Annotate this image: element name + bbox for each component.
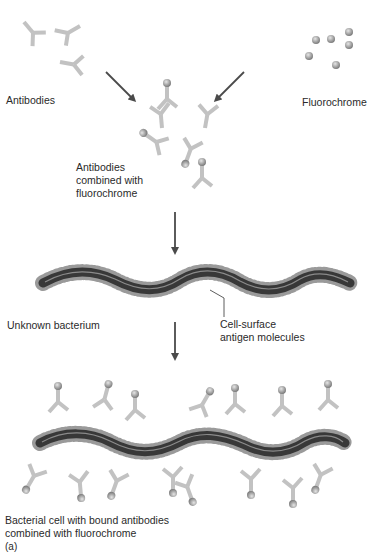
label-antigen-line1: Cell-surface xyxy=(220,318,305,331)
arrow-antibodies-to-combined xyxy=(106,72,134,100)
label-antigen-line2: antigen molecules xyxy=(220,331,305,344)
bound-antibodies-bottom xyxy=(15,462,332,509)
label-combined-line1: Antibodies xyxy=(76,161,143,174)
label-antigen: Cell-surface antigen molecules xyxy=(220,318,305,344)
label-unknown-bacterium: Unknown bacterium xyxy=(7,319,100,332)
antibody-fluorochrome-complex-icon xyxy=(135,79,218,188)
bound-bacterium-icon xyxy=(15,378,345,509)
free-antibodies-icon xyxy=(17,16,85,75)
label-combined-line3: fluorochrome xyxy=(76,187,143,200)
arrow-fluorochrome-to-combined xyxy=(216,72,244,100)
label-bound: Bacterial cell with bound antibodies com… xyxy=(5,514,169,540)
label-bound-line2: combined with fluorochrome xyxy=(5,527,169,540)
label-combined: Antibodies combined with fluorochrome xyxy=(76,161,143,200)
diagram-canvas xyxy=(0,0,372,553)
panel-label: (a) xyxy=(5,540,17,553)
bound-antibodies-top xyxy=(49,378,338,420)
label-antibodies: Antibodies xyxy=(6,94,55,107)
label-fluorochrome: Fluorochrome xyxy=(302,96,367,109)
unknown-bacterium-icon xyxy=(43,271,350,317)
label-combined-line2: combined with xyxy=(76,174,143,187)
fluorochrome-molecules-icon xyxy=(305,28,353,69)
label-bound-line1: Bacterial cell with bound antibodies xyxy=(5,514,169,527)
